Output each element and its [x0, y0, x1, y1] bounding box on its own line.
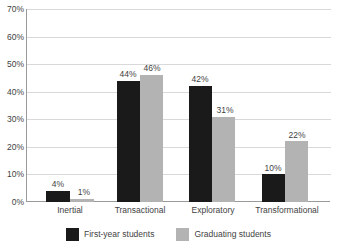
bar-group-inertial: 4% 1% — [46, 9, 94, 202]
bar-value-graduating-transactional: 46% — [140, 64, 164, 73]
legend-item-graduating-students[interactable]: Graduating students — [176, 228, 271, 241]
bar-first-year-inertial[interactable] — [46, 191, 70, 202]
bar-graduating-transactional[interactable] — [140, 75, 163, 202]
bar-first-year-transformational[interactable] — [262, 174, 285, 202]
y-tick-label: 50% — [0, 60, 24, 69]
bar-first-year-transactional[interactable] — [117, 81, 140, 202]
legend-label: First-year students — [84, 229, 154, 239]
bar-graduating-transformational[interactable] — [285, 141, 308, 202]
bar-value-graduating-inertial: 1% — [72, 188, 96, 197]
y-axis: 70% 60% 50% 40% 30% 20% 10% 0% — [0, 0, 24, 246]
y-tick-label: 70% — [0, 5, 24, 14]
bar-group-transformational: 10% 22% — [262, 9, 308, 202]
x-label-exploratory: Exploratory — [178, 205, 248, 216]
legend-swatch-icon — [66, 228, 79, 241]
bar-graduating-inertial[interactable] — [70, 199, 94, 202]
y-tick-label: 40% — [0, 88, 24, 97]
bar-value-first-year-exploratory: 42% — [188, 75, 212, 84]
bar-group-transactional: 44% 46% — [117, 9, 163, 202]
bar-value-first-year-transactional: 44% — [116, 70, 140, 79]
legend-item-first-year-students[interactable]: First-year students — [66, 228, 154, 241]
bar-value-first-year-inertial: 4% — [46, 180, 70, 189]
bar-chart: 70% 60% 50% 40% 30% 20% 10% 0% 4% 1% 44% — [0, 0, 337, 246]
y-tick-label: 10% — [0, 170, 24, 179]
x-label-transformational: Transformational — [242, 205, 332, 216]
bar-value-graduating-transformational: 22% — [285, 131, 309, 140]
y-tick-label: 30% — [0, 115, 24, 124]
x-label-inertial: Inertial — [40, 205, 100, 216]
y-tick-label: 0% — [0, 198, 24, 207]
bar-group-exploratory: 42% 31% — [189, 9, 235, 202]
x-label-transactional: Transactional — [100, 205, 180, 216]
y-tick-label: 60% — [0, 33, 24, 42]
legend-label: Graduating students — [194, 229, 271, 239]
chart-legend: First-year students Graduating students — [0, 226, 337, 242]
legend-swatch-icon — [176, 228, 189, 241]
bar-value-graduating-exploratory: 31% — [213, 106, 237, 115]
y-tick-label: 20% — [0, 143, 24, 152]
x-axis: Inertial Transactional Exploratory Trans… — [26, 205, 330, 219]
bar-graduating-exploratory[interactable] — [212, 117, 235, 203]
bar-first-year-exploratory[interactable] — [189, 86, 212, 202]
bar-value-first-year-transformational: 10% — [261, 164, 285, 173]
bar-groups: 4% 1% 44% 46% 42% 31% 10% 22% — [26, 9, 330, 202]
